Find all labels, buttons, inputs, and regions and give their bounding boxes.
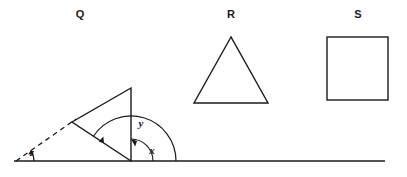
shape-s-square [327,37,388,100]
shape-label-s: S [354,8,361,20]
angle-label-x: x [148,144,155,156]
dashed-extension-line [16,119,76,161]
angle-label-y: y [137,117,144,129]
geometry-figure: Q R S x y z [0,0,407,177]
shape-r-triangle [194,37,268,103]
shape-label-q: Q [76,8,85,20]
angle-y-arc [93,116,176,161]
shape-q-triangle [72,88,131,161]
angle-label-z: z [29,146,35,158]
figure-canvas: Q R S x y z [0,0,407,177]
shape-label-r: R [227,8,235,20]
